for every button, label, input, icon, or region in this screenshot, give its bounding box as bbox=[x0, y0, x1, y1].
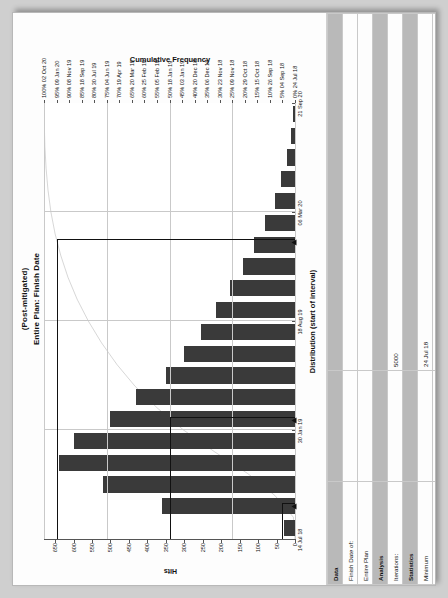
x-axis-tick-mark bbox=[292, 430, 295, 431]
rotated-page-wrapper: (Post-mitigated) Entire Plan: Finish Dat… bbox=[0, 0, 448, 598]
table-cell-c3: 5000 bbox=[388, 14, 403, 371]
cumulative-tick-mark bbox=[195, 100, 196, 103]
cumulative-tick-mark bbox=[157, 100, 158, 103]
cumulative-tick-mark bbox=[69, 100, 70, 103]
x-axis-tick-label: 21 Sep 20 bbox=[297, 91, 303, 117]
vertical-gridline bbox=[44, 211, 295, 212]
histogram-bar bbox=[201, 324, 295, 340]
cumulative-tick-label: 65% 20 Mar 19 bbox=[129, 60, 135, 98]
cumulative-tick-label: 5% 04 Sep 18 bbox=[279, 63, 285, 98]
table-cell-c2 bbox=[418, 371, 433, 482]
cumulative-tick-label: 90% 08 Nov 19 bbox=[66, 60, 72, 98]
y-axis-tick-label: 350 bbox=[163, 543, 169, 552]
y-axis-tick-mark bbox=[147, 540, 148, 543]
table-cell-c1: Analysis bbox=[373, 482, 388, 585]
cumulative-tick-label: 95% 09 Jan 20 bbox=[54, 61, 60, 98]
x-axis-tick-label: 06 Mar 20 bbox=[297, 200, 303, 225]
cumulative-tick-label: 15% 15 Oct 18 bbox=[254, 61, 260, 98]
table-cell-c2 bbox=[358, 371, 373, 482]
cumulative-tick-mark bbox=[170, 100, 171, 103]
table-row: Entire Plan bbox=[358, 14, 373, 585]
highlighter-95-horizontal bbox=[57, 240, 58, 539]
cumulative-tick-mark bbox=[232, 100, 233, 103]
histogram-bar bbox=[184, 346, 295, 362]
table-section-header: Statistics bbox=[403, 14, 418, 585]
table-cell-c3 bbox=[373, 14, 388, 371]
cumulative-tick-mark bbox=[119, 100, 120, 103]
y-axis-tick-mark bbox=[221, 540, 222, 543]
highlighter-50-vertical bbox=[170, 417, 296, 418]
cumulative-tick-mark bbox=[144, 100, 145, 103]
table-cell-c3 bbox=[328, 14, 343, 371]
histogram-bar bbox=[243, 258, 295, 274]
y-axis-tick-mark bbox=[92, 540, 93, 543]
y-axis-tick-mark bbox=[295, 540, 296, 543]
table-cell-c1: Minimum bbox=[418, 482, 433, 585]
cumulative-tick-label: 20% 29 Oct 18 bbox=[242, 61, 248, 98]
x-axis-tick-mark bbox=[292, 212, 295, 213]
cumulative-tick-label: 50% 18 Jan 19 bbox=[167, 61, 173, 98]
table-cell-c2 bbox=[373, 371, 388, 482]
table-section-header: Data bbox=[328, 14, 343, 585]
cumulative-tick-label: 45% 03 Jan 19 bbox=[179, 61, 185, 98]
histogram-bar bbox=[59, 455, 295, 471]
y-axis-tick-mark bbox=[277, 540, 278, 543]
table-cell-c1: Data bbox=[328, 482, 343, 585]
y-axis-title: Hits bbox=[44, 566, 296, 577]
y-axis-tick-label: 100 bbox=[255, 543, 261, 552]
cumulative-tick-label: 35% 06 Dec 18 bbox=[204, 60, 210, 98]
horizontal-gridline bbox=[232, 103, 233, 539]
table-row: Maximum02 Oct 20 bbox=[433, 14, 437, 585]
chart-title-line1: (Post-mitigated) bbox=[20, 21, 30, 577]
table-cell-c1: Iterations: bbox=[388, 482, 403, 585]
y-axis-tick-label: 150 bbox=[237, 543, 243, 552]
x-axis-tick-label: 14 Jul 18 bbox=[297, 529, 303, 552]
y-axis-tick-label: 500 bbox=[107, 543, 113, 552]
highlighter-50-horizontal bbox=[170, 418, 171, 539]
cumulative-tick-label: 25% 09 Nov 18 bbox=[229, 60, 235, 98]
table-cell-c3: 24 Jul 18 bbox=[418, 14, 433, 371]
cumulative-tick-mark bbox=[82, 100, 83, 103]
y-axis-tick-mark bbox=[258, 540, 259, 543]
histogram-bar bbox=[265, 215, 295, 231]
x-axis: Distribution (start of interval) 14 Jul … bbox=[296, 103, 322, 540]
table-cell-c3 bbox=[403, 14, 418, 371]
x-axis-tick-label: 30 Jan 19 bbox=[297, 419, 303, 444]
screenshot-page: (Post-mitigated) Entire Plan: Finish Dat… bbox=[0, 0, 448, 598]
table-section-header: Analysis bbox=[373, 14, 388, 585]
cumulative-tick-label: 70% 19 Apr 19 bbox=[116, 61, 122, 98]
histogram-bar bbox=[136, 389, 295, 405]
histogram-bar bbox=[275, 193, 295, 209]
cumulative-tick-mark bbox=[257, 100, 258, 103]
y-axis-tick-label: 600 bbox=[71, 543, 77, 552]
cumulative-tick-label: 55% 05 Feb 19 bbox=[154, 60, 160, 98]
highlighter-95-vertical bbox=[57, 239, 295, 240]
y-axis-tick-label: 200 bbox=[218, 543, 224, 552]
cumulative-tick-mark bbox=[44, 100, 45, 103]
y-axis-tick-label: 50 bbox=[274, 543, 280, 549]
cumulative-tick-mark bbox=[132, 100, 133, 103]
cumulative-tick-label: 85% 18 Sep 19 bbox=[79, 60, 85, 98]
plot-canvas bbox=[44, 103, 296, 540]
cumulative-tick-label: 60% 25 Feb 19 bbox=[141, 60, 147, 98]
vertical-gridline bbox=[44, 320, 295, 321]
y-axis-ticks: 050100150200250300350400450500550600650 bbox=[44, 540, 296, 566]
histogram-bar bbox=[162, 498, 295, 514]
horizontal-gridline bbox=[44, 103, 45, 539]
table-cell-c1: Finish Date of: bbox=[343, 482, 358, 585]
cumulative-tick-mark bbox=[94, 100, 95, 103]
histogram-bar bbox=[166, 367, 295, 383]
histogram-bar bbox=[281, 171, 295, 187]
table-row: Minimum24 Jul 18 bbox=[418, 14, 433, 585]
cumulative-tick-label: 80% 30 Jul 19 bbox=[91, 63, 97, 98]
cumulative-tick-mark bbox=[282, 100, 283, 103]
x-axis-tick-mark bbox=[292, 321, 295, 322]
y-axis-tick-label: 300 bbox=[181, 543, 187, 552]
data-table-area: DataFinish Date of:Entire PlanAnalysisIt… bbox=[326, 13, 436, 585]
table-cell-c2 bbox=[403, 371, 418, 482]
y-axis-tick-label: 550 bbox=[89, 543, 95, 552]
cumulative-tick-mark bbox=[57, 100, 58, 103]
y-axis-tick-label: 650 bbox=[52, 543, 58, 552]
table-cell-c2 bbox=[433, 371, 437, 482]
y-axis-tick-mark bbox=[240, 540, 241, 543]
